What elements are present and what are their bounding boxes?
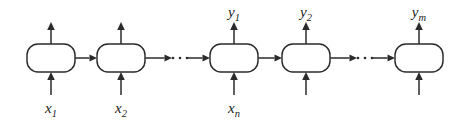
- output-y-m-subscript: m: [419, 12, 427, 23]
- conn-1-to-2-head: [90, 54, 98, 61]
- output-arrow-5-head: [415, 22, 423, 30]
- conn-4-to-ellipsis-2-head: [350, 54, 358, 61]
- ellipsis-1-dot-3: [186, 57, 189, 60]
- conn-3-to-4-head: [275, 54, 283, 61]
- output-y-m-base: y: [410, 4, 419, 20]
- rnn-cell-4: [282, 44, 330, 72]
- rnn-diagram-canvas: x1x2xny1y2ym: [0, 0, 463, 121]
- output-arrow-4-head: [302, 22, 310, 30]
- ellipsis-1-dot-2: [179, 57, 182, 60]
- rnn-cell-3: [210, 44, 258, 72]
- input-x-n-subscript: n: [235, 108, 240, 119]
- output-label-y-2: y2: [298, 4, 313, 23]
- input-arrow-3-head: [230, 72, 238, 80]
- conn-ellipsis-2-to-5-head: [388, 54, 396, 61]
- input-arrow-5-head: [415, 72, 423, 80]
- input-label-x-n: xn: [227, 100, 240, 119]
- input-arrow-4-head: [302, 72, 310, 80]
- conn-2-to-ellipsis-1-head: [165, 54, 173, 61]
- rnn-cell-2: [97, 44, 145, 72]
- input-label-x-2: x2: [114, 100, 128, 119]
- ellipsis-2-dot-1: [357, 57, 360, 60]
- conn-ellipsis-1-to-3-head: [203, 54, 211, 61]
- ellipsis-2-dot-2: [364, 57, 367, 60]
- output-arrow-1-head: [47, 22, 55, 30]
- output-y-1-base: y: [226, 4, 235, 20]
- rnn-cell-5: [395, 44, 443, 72]
- input-x-1-subscript: 1: [52, 108, 57, 119]
- output-y-2-base: y: [298, 4, 307, 20]
- ellipsis-1-dot-1: [172, 57, 175, 60]
- input-label-x-1: x1: [44, 100, 57, 119]
- output-arrow-3-head: [230, 22, 238, 30]
- vertical-output-arrows-layer: [47, 22, 423, 44]
- output-label-y-1: y1: [226, 4, 240, 23]
- output-label-y-m: ym: [410, 4, 427, 23]
- output-y-2-subscript: 2: [307, 12, 313, 23]
- input-arrow-1-head: [47, 72, 55, 80]
- rnn-cell-1: [27, 44, 75, 72]
- ellipsis-2-dot-3: [371, 57, 374, 60]
- rnn-unrolled-diagram: x1x2xny1y2ym: [0, 0, 463, 121]
- output-y-1-subscript: 1: [235, 12, 240, 23]
- input-x-2-subscript: 2: [122, 108, 128, 119]
- vertical-input-arrows-layer: [47, 72, 423, 95]
- output-arrow-2-head: [117, 22, 125, 30]
- input-arrow-2-head: [117, 72, 125, 80]
